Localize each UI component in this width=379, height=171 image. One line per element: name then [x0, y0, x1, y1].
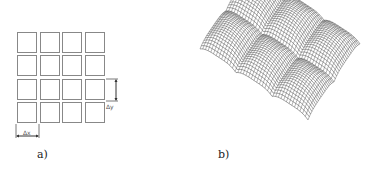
delta-y-label: Δy	[106, 103, 114, 110]
panel-a-label: a)	[37, 148, 48, 161]
panel-b-label: b)	[218, 148, 229, 161]
panel-a-grid-diagram: Δy Δx a)	[0, 0, 190, 171]
delta-x-label: Δx	[23, 129, 31, 136]
panel-b-surface-plot: b)	[190, 0, 379, 171]
dimension-arrows	[0, 0, 190, 171]
wireframe-surface	[190, 0, 379, 171]
